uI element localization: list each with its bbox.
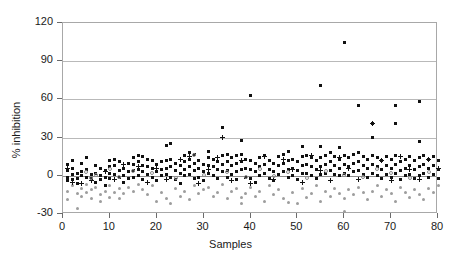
data-point <box>394 154 397 157</box>
data-point <box>71 184 74 187</box>
x-tick-label-0: 0 <box>42 221 82 232</box>
data-point <box>268 184 271 187</box>
data-point <box>407 167 412 172</box>
data-point <box>287 150 290 153</box>
data-point <box>99 178 102 181</box>
data-point <box>212 158 215 161</box>
x-tick-mark-40 <box>250 213 251 218</box>
data-point <box>305 196 308 199</box>
data-point <box>118 169 121 172</box>
data-point <box>71 173 74 176</box>
data-point <box>385 155 388 158</box>
data-point <box>324 163 327 166</box>
data-point <box>418 165 421 168</box>
data-point <box>277 173 280 176</box>
data-point <box>183 168 186 171</box>
data-point <box>404 158 407 161</box>
data-point <box>113 158 116 161</box>
data-point <box>301 145 304 148</box>
x-tick-label-40: 40 <box>230 221 270 232</box>
data-point <box>436 166 441 171</box>
data-point <box>389 178 394 183</box>
data-point <box>207 172 210 175</box>
data-point <box>212 174 215 177</box>
gridline-60 <box>63 99 436 100</box>
data-point <box>385 164 388 167</box>
data-point <box>240 202 243 205</box>
data-point <box>282 153 285 156</box>
data-point <box>315 159 318 162</box>
data-point <box>310 174 313 177</box>
data-point <box>282 197 285 200</box>
data-point <box>137 160 140 163</box>
data-point <box>305 176 309 180</box>
data-point <box>132 190 135 193</box>
data-point <box>427 176 430 179</box>
data-point <box>329 169 332 172</box>
data-point <box>174 169 177 172</box>
data-point <box>385 188 388 191</box>
data-point <box>329 195 332 198</box>
data-point <box>338 146 341 149</box>
data-point <box>399 160 402 163</box>
data-point <box>394 200 397 203</box>
data-point <box>76 207 79 210</box>
data-point <box>235 154 238 157</box>
data-point <box>183 160 186 163</box>
data-point <box>220 135 225 140</box>
data-point <box>235 187 238 190</box>
y-tick-label-60: 60 <box>41 92 53 103</box>
data-point <box>244 167 247 170</box>
data-point <box>225 170 229 174</box>
data-point <box>169 165 172 168</box>
data-point <box>319 84 322 87</box>
data-point <box>352 162 355 165</box>
y-tick-label--30: -30 <box>37 207 53 218</box>
data-point <box>146 165 149 168</box>
data-point <box>263 163 266 166</box>
data-point <box>226 160 229 163</box>
data-point <box>80 162 83 165</box>
data-point <box>155 200 158 203</box>
x-tick-label-60: 60 <box>323 221 363 232</box>
data-point <box>122 174 125 177</box>
data-point <box>71 159 74 162</box>
data-point <box>342 173 346 177</box>
data-point <box>301 172 304 175</box>
data-point <box>230 190 233 193</box>
data-point <box>99 200 102 203</box>
data-point <box>249 168 252 171</box>
data-point <box>80 174 83 177</box>
data-point <box>379 158 384 163</box>
data-point <box>258 174 261 177</box>
data-point <box>376 156 379 159</box>
data-point <box>426 157 431 162</box>
data-point <box>380 195 383 198</box>
data-point <box>235 162 238 165</box>
data-point <box>118 160 121 163</box>
data-point <box>371 163 374 166</box>
data-point <box>221 126 224 129</box>
data-point <box>226 153 229 156</box>
data-point <box>347 188 350 191</box>
data-point <box>338 167 341 170</box>
data-point <box>324 169 328 173</box>
data-point <box>301 187 304 190</box>
data-point <box>154 166 159 171</box>
data-point <box>85 176 88 179</box>
data-point <box>418 156 421 159</box>
data-point <box>216 168 219 171</box>
data-point <box>318 168 323 173</box>
data-point <box>216 177 219 180</box>
data-point <box>286 170 290 174</box>
data-point <box>357 186 360 189</box>
data-point <box>271 177 276 182</box>
data-point <box>94 164 97 167</box>
data-point <box>352 193 355 196</box>
data-point <box>179 195 182 198</box>
data-point <box>169 142 172 145</box>
data-point <box>113 173 116 176</box>
x-tick-mark-80 <box>437 213 438 218</box>
data-point <box>422 198 425 201</box>
data-point <box>376 184 379 187</box>
